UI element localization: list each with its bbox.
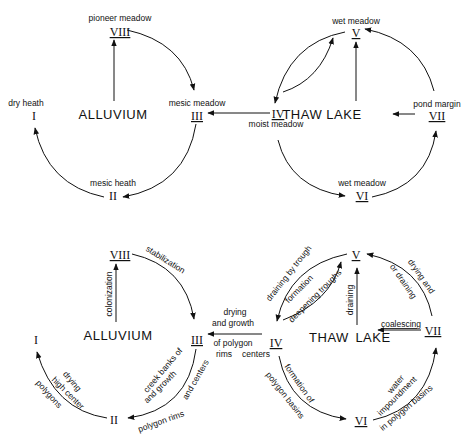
center-label-thaw: THAW [309,330,349,345]
succession-diagram: pioneer meadow VIII ALLUVIUM mesic meado… [0,0,475,445]
node-label-pioneer-meadow: pioneer meadow [89,13,153,23]
center-label-lake: LAKE [355,330,390,345]
node-label-pond-margin: pond margin [413,99,461,109]
panel-bottom-right: V IV VI VII THAW LAKE draining coalescin… [264,243,442,433]
center-label-alluvium: ALLUVIUM [78,107,147,122]
arrow-viii-to-iii [127,30,194,90]
edge-label-mid-drying: drying [223,307,246,317]
edge-label-and-centers: and centers [180,358,211,401]
node-vii-bottom: VII [425,324,442,338]
edge-label-coalescing: coalescing [381,319,421,329]
arrow-v-to-iv [275,32,345,103]
edge-label-mid-growth: and growth [212,318,254,328]
arrow-vii-to-v [365,29,434,91]
node-label-wet-meadow-vi: wet meadow [337,178,387,188]
node-v: V [352,26,361,40]
edge-label-mid-rims: rims [216,349,232,359]
edge-label-mid-centers: centers [242,349,270,359]
edge-label-mid-of-polygon: of polygon [213,338,252,348]
node-viii-bottom: VIII [110,248,131,262]
node-label-dry-heath: dry heath [8,98,44,108]
node-label-mesic-heath: mesic heath [90,178,136,188]
arrow-v-to-iv-bottom [277,254,347,321]
cross-link-bottom: drying and growth of polygon rims center… [208,307,270,359]
center-label-alluvium-bottom: ALLUVIUM [83,328,152,343]
node-vii: VII [429,109,446,123]
arrow-iv-to-vi [278,140,345,196]
node-ii-bottom: II [110,413,118,427]
node-iv-bottom: IV [270,336,283,350]
panel-top-left: pioneer meadow VIII ALLUVIUM mesic meado… [8,13,226,203]
edge-label-polygon-rims: polygon rims [137,408,186,434]
panel-bottom-left: VIII ALLUVIUM colonization III II I stab… [34,243,211,434]
node-label-wet-meadow-v: wet meadow [331,16,381,26]
node-label-mesic-meadow: mesic meadow [169,98,227,108]
node-ii: II [109,189,117,203]
node-v-bottom: V [352,248,361,262]
edge-label-colonization: colonization [104,271,114,316]
node-iii-bottom: III [191,333,203,347]
node-iii: III [191,109,203,123]
panel-top-right: wet meadow V THAW LAKE IV moist meadow w… [249,16,461,203]
node-viii: VIII [110,25,131,39]
node-i-bottom: I [34,333,38,347]
node-vi: VI [356,189,369,203]
node-label-moist-meadow: moist meadow [249,119,305,129]
edge-label-draining: draining [345,285,355,316]
node-vi-bottom: VI [355,414,368,428]
node-i: I [32,109,36,123]
arrow-viii-to-iii-bottom [132,254,194,319]
